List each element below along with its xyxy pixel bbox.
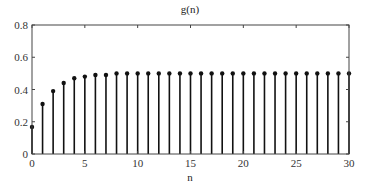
stem-marker bbox=[146, 71, 150, 75]
stem-marker bbox=[273, 71, 277, 75]
stem-marker bbox=[336, 71, 340, 75]
stem-point bbox=[336, 71, 340, 154]
y-tick-label: 0.4 bbox=[14, 84, 28, 96]
stem-point bbox=[188, 71, 192, 154]
stem-marker bbox=[178, 71, 182, 75]
stem-point bbox=[252, 71, 256, 154]
stem-point bbox=[72, 76, 76, 154]
x-tick-label: 20 bbox=[238, 157, 250, 169]
stem-marker bbox=[199, 71, 203, 75]
y-tick-label: 0 bbox=[23, 148, 29, 160]
y-tick-label: 0.8 bbox=[14, 19, 28, 31]
stem-marker bbox=[62, 81, 66, 85]
stem-point bbox=[315, 71, 319, 154]
stem-point bbox=[51, 89, 55, 154]
stem-point bbox=[167, 71, 171, 154]
stem-marker bbox=[294, 71, 298, 75]
stem-point bbox=[125, 71, 129, 154]
chart-title: g(n) bbox=[181, 3, 200, 16]
stem-point bbox=[114, 71, 118, 154]
stem-marker bbox=[283, 71, 287, 75]
stem-point bbox=[83, 74, 87, 154]
stem-marker bbox=[231, 71, 235, 75]
stem-point bbox=[104, 73, 108, 154]
stem-point bbox=[220, 71, 224, 154]
x-tick-label: 5 bbox=[82, 157, 88, 169]
x-tick-label: 25 bbox=[291, 157, 303, 169]
stem-marker bbox=[209, 71, 213, 75]
stem-marker bbox=[241, 71, 245, 75]
x-axis-label: n bbox=[187, 171, 193, 183]
plot-area bbox=[30, 71, 351, 154]
stem-marker bbox=[104, 73, 108, 77]
stem-point bbox=[231, 71, 235, 154]
stem-marker bbox=[125, 71, 129, 75]
stem-point bbox=[326, 71, 330, 154]
stem-marker bbox=[220, 71, 224, 75]
x-tick-label: 0 bbox=[29, 157, 35, 169]
stem-chart: 00.20.40.60.8 051015202530 g(n) n bbox=[0, 0, 367, 189]
stem-point bbox=[241, 71, 245, 154]
stem-marker bbox=[51, 89, 55, 93]
y-tick-label: 0.6 bbox=[14, 51, 28, 63]
stem-marker bbox=[157, 71, 161, 75]
stem-marker bbox=[83, 74, 87, 78]
stem-point bbox=[199, 71, 203, 154]
stem-marker bbox=[262, 71, 266, 75]
stem-point bbox=[93, 73, 97, 154]
x-tick-label: 15 bbox=[185, 157, 197, 169]
y-tick-label: 0.2 bbox=[14, 116, 28, 128]
stem-marker bbox=[167, 71, 171, 75]
stem-point bbox=[209, 71, 213, 154]
stem-marker bbox=[72, 76, 76, 80]
stem-point bbox=[283, 71, 287, 154]
stem-point bbox=[62, 81, 66, 154]
stem-point bbox=[178, 71, 182, 154]
stem-point bbox=[135, 71, 139, 154]
x-tick-label: 10 bbox=[132, 157, 144, 169]
stem-marker bbox=[114, 71, 118, 75]
stem-point bbox=[40, 102, 44, 154]
stem-marker bbox=[315, 71, 319, 75]
stem-marker bbox=[252, 71, 256, 75]
stem-marker bbox=[188, 71, 192, 75]
stem-marker bbox=[305, 71, 309, 75]
stem-marker bbox=[135, 71, 139, 75]
stem-marker bbox=[326, 71, 330, 75]
stem-point bbox=[294, 71, 298, 154]
stem-point bbox=[146, 71, 150, 154]
x-tick-label: 30 bbox=[344, 157, 356, 169]
stem-marker bbox=[40, 102, 44, 106]
stem-point bbox=[305, 71, 309, 154]
stem-point bbox=[262, 71, 266, 154]
stem-point bbox=[273, 71, 277, 154]
stem-marker bbox=[93, 73, 97, 77]
stem-point bbox=[157, 71, 161, 154]
